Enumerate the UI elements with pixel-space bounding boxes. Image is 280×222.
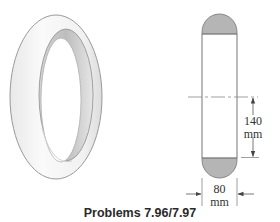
width-dimension-value: 80 (214, 182, 226, 196)
top-cap-section (202, 14, 237, 34)
cross-section-diagram: 140 mm 80 mm (186, 14, 263, 209)
height-dimension-value: 140 (244, 114, 262, 128)
figure: 140 mm 80 mm Problems 7.96/7.97 (0, 0, 280, 222)
figure-caption: Problems 7.96/7.97 (84, 206, 197, 220)
width-dimension-unit: mm (210, 195, 229, 209)
ring-illustration (10, 15, 102, 179)
height-dimension-unit: mm (244, 127, 263, 141)
bottom-cap-section (202, 158, 237, 178)
